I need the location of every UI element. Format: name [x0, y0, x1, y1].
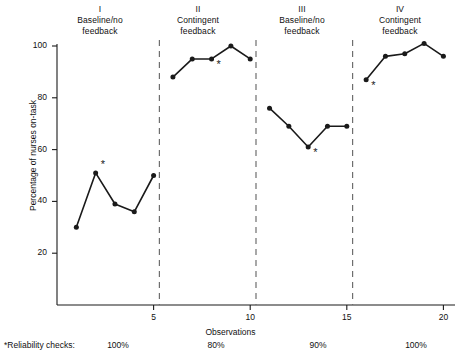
- footnote-value-2: 80%: [194, 340, 238, 350]
- footnote-value-3: 90%: [296, 340, 340, 350]
- x-axis-title-text: Observations: [205, 327, 255, 337]
- data-point: [306, 145, 311, 150]
- y-tick-label: 80: [17, 92, 47, 102]
- reliability-asterisk: *: [313, 146, 318, 158]
- data-point: [344, 124, 349, 129]
- y-tick-label: 20: [17, 247, 47, 257]
- data-point: [402, 51, 407, 56]
- footnote-label-text: *Reliability checks:: [4, 340, 75, 350]
- reliability-asterisk: *: [101, 158, 106, 170]
- footnote-value-4: 100%: [394, 340, 438, 350]
- data-point: [228, 44, 233, 49]
- data-point: [267, 106, 272, 111]
- data-point: [441, 54, 446, 59]
- y-tick-label: 60: [17, 144, 47, 154]
- data-point: [170, 75, 175, 80]
- data-point: [112, 201, 117, 206]
- x-tick-label: 10: [235, 312, 265, 322]
- x-tick-label: 5: [139, 312, 169, 322]
- data-point: [190, 56, 195, 61]
- data-point: [74, 225, 79, 230]
- x-tick-label: 15: [332, 312, 362, 322]
- y-tick-label: 100: [17, 40, 47, 50]
- data-line-phase-4: [366, 43, 443, 79]
- data-point: [422, 41, 427, 46]
- data-line-phase-3: [270, 108, 347, 147]
- footnote-value-1: 100%: [96, 340, 140, 350]
- data-point: [151, 173, 156, 178]
- footnote-label: *Reliability checks:: [4, 340, 75, 350]
- reliability-asterisk: *: [217, 58, 222, 70]
- data-point: [248, 56, 253, 61]
- data-point: [93, 170, 98, 175]
- x-tick-label: 20: [428, 312, 458, 322]
- chart-figure: I Baseline/no feedback II Contingent fee…: [0, 0, 461, 354]
- data-point: [132, 209, 137, 214]
- x-axis-title: Observations: [0, 327, 461, 337]
- data-line-phase-2: [173, 46, 250, 77]
- data-point: [209, 56, 214, 61]
- data-point: [325, 124, 330, 129]
- reliability-asterisk: *: [371, 79, 376, 91]
- plot-area: ****: [0, 0, 461, 354]
- y-tick-label: 40: [17, 195, 47, 205]
- data-point: [364, 77, 369, 82]
- data-point: [383, 54, 388, 59]
- data-point: [286, 124, 291, 129]
- data-line-phase-1: [76, 173, 153, 227]
